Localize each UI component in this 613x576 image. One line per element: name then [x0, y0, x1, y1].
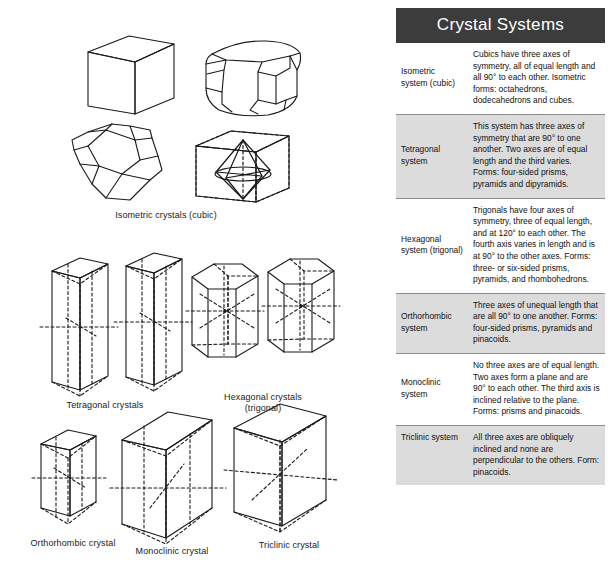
system-description: Cubics have three axes of symmetry, all … [468, 43, 605, 114]
table-row: Monoclinic system No three axes are of e… [396, 354, 605, 426]
monoclinic-crystal-figure [110, 412, 226, 544]
system-name: Triclinic system [396, 426, 468, 486]
triclinic-crystal-figure [224, 404, 338, 532]
system-name: Hexagonal system (trigonal) [396, 198, 468, 293]
hexagonal-prism-1 [186, 264, 264, 357]
tetragonal-prism-1 [40, 258, 118, 396]
figure-label-hexagonal: Hexagonal crystals (trigonal) [198, 392, 328, 414]
table-row: Isometric system (cubic) Cubics have thr… [396, 43, 605, 114]
cube-figure [88, 36, 174, 114]
table-row: Orthorhombic system Three axes of unequa… [396, 293, 605, 353]
table-title: Crystal Systems [396, 8, 605, 43]
table-row: Triclinic system All three axes are obli… [396, 426, 605, 486]
octahedron-in-cube-figure [196, 131, 289, 202]
figure-label-triclinic: Triclinic crystal [234, 540, 344, 551]
truncated-cube-figure [206, 41, 301, 116]
system-name: Orthorhombic system [396, 293, 468, 353]
table-row: Hexagonal system (trigonal) Trigonals ha… [396, 198, 605, 293]
system-description: Trigonals have four axes of symmetry, th… [468, 198, 605, 293]
system-description: Three axes of unequal length that are al… [468, 293, 605, 353]
figure-label-isometric: Isometric crystals (cubic) [86, 210, 246, 221]
system-name: Monoclinic system [396, 354, 468, 426]
figure-label-monoclinic: Monoclinic crystal [112, 546, 232, 557]
figure-label-tetragonal: Tetragonal crystals [35, 400, 175, 411]
system-description: All three axes are obliquely inclined an… [468, 426, 605, 486]
crystal-figures-panel: Isometric crystals (cubic) Tetragonal cr… [0, 0, 370, 576]
dodecahedron-figure [72, 124, 162, 200]
table-row: Tetragonal system This system has three … [396, 114, 605, 198]
system-name: Tetragonal system [396, 114, 468, 198]
crystal-systems-table-panel: Crystal Systems Isometric system (cubic)… [396, 8, 605, 485]
tetragonal-prism-2 [114, 253, 192, 391]
crystal-systems-table: Isometric system (cubic) Cubics have thr… [396, 43, 605, 485]
orthorhombic-crystal-figure [32, 430, 106, 524]
crystal-drawings [0, 0, 370, 576]
system-description: No three axes are of equal length. Two a… [468, 354, 605, 426]
system-description: This system has three axes of symmetry t… [468, 114, 605, 198]
hexagonal-prism-2 [262, 259, 340, 352]
system-name: Isometric system (cubic) [396, 43, 468, 114]
